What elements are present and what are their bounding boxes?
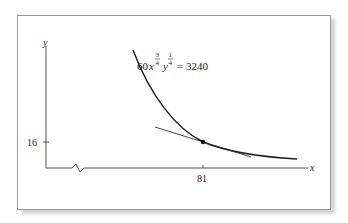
x-exponent-numerator: 3 (156, 51, 160, 59)
x-axis-label: x (309, 162, 315, 173)
y-exponent-denominator: 4 (169, 59, 173, 67)
equation-rhs: = 3240 (177, 60, 208, 72)
y-exponent-numerator: 1 (169, 51, 173, 59)
equation-y: y (162, 60, 168, 72)
y-tick-label: 16 (27, 137, 37, 148)
x-axis (46, 164, 308, 172)
y-axis-label: y (42, 37, 48, 48)
x-tick-label: 81 (197, 173, 207, 184)
x-exponent-denominator: 4 (156, 59, 160, 67)
equation-coef: 60 (137, 60, 149, 72)
equation-label: 60 x 3 4 y 1 4 = 3240 (137, 51, 208, 72)
tangent-point (201, 140, 206, 145)
level-curve-diagram: y x 16 81 60 x 3 4 y 1 4 = 3240 (0, 0, 348, 223)
equation-x: x (148, 60, 154, 72)
